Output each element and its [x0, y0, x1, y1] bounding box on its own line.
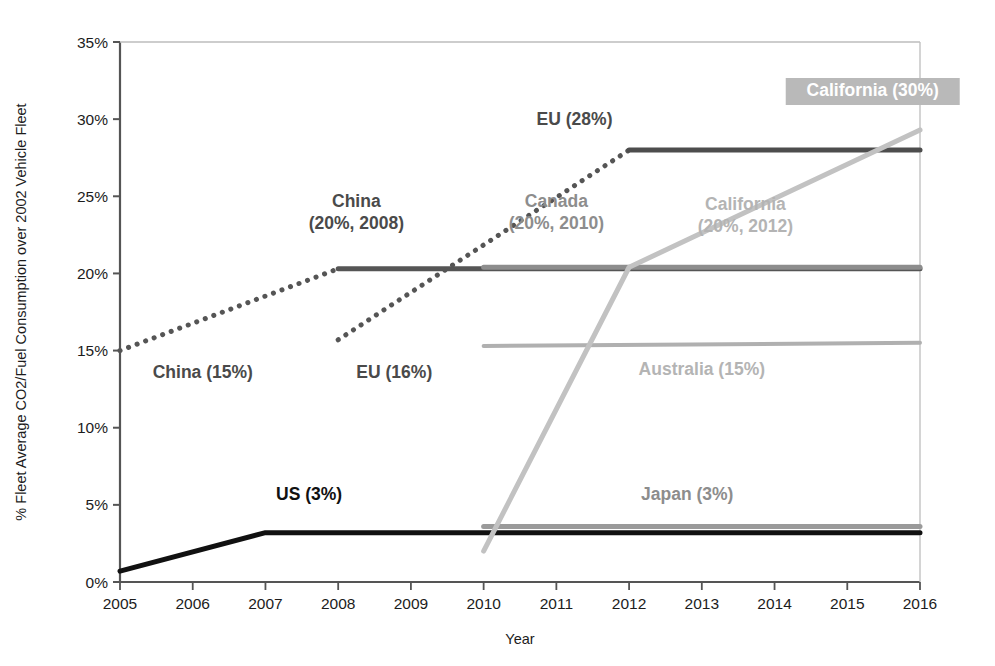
y-tick-label: 20% [77, 265, 108, 282]
annotation-label: (20%, 2008) [309, 213, 404, 233]
x-tick-label: 2012 [612, 595, 646, 612]
x-tick-label: 2013 [685, 595, 719, 612]
annotation-us-3: US (3%) [276, 484, 342, 504]
annotation-label: US (3%) [276, 484, 342, 504]
annotation-japan-3: Japan (3%) [641, 484, 733, 504]
x-tick-label: 2015 [830, 595, 864, 612]
x-tick-label: 2005 [103, 595, 137, 612]
annotation-label: California (30%) [807, 80, 939, 100]
y-tick-label: 5% [86, 496, 109, 513]
x-tick-label: 2007 [248, 595, 282, 612]
y-tick-label: 25% [77, 188, 108, 205]
annotation-label: Australia (15%) [639, 359, 765, 379]
annotation-label: (20%, 2012) [698, 216, 793, 236]
y-tick-label: 30% [77, 111, 108, 128]
annotation-label: EU (16%) [356, 362, 432, 382]
chart-container: 0%5%10%15%20%25%30%35% 20052006200720082… [0, 0, 995, 666]
x-tick-label: 2014 [757, 595, 792, 612]
x-tick-label: 2006 [175, 595, 209, 612]
annotation-australia-15: Australia (15%) [639, 359, 765, 379]
y-tick-label: 0% [86, 574, 109, 591]
annotation-label: California [705, 194, 786, 214]
x-tick-label: 2011 [540, 595, 573, 612]
annotation-china-15: China (15%) [153, 362, 253, 382]
annotation-eu-16: EU (16%) [356, 362, 432, 382]
annotation-label: Japan (3%) [641, 484, 733, 504]
y-tick-label: 35% [77, 34, 108, 51]
annotation-label: (20%, 2010) [509, 213, 604, 233]
x-axis-title: Year [505, 631, 534, 647]
annotation-label: China (15%) [153, 362, 253, 382]
line-chart: 0%5%10%15%20%25%30%35% 20052006200720082… [0, 0, 995, 666]
annotation-label: China [332, 191, 381, 211]
x-tick-label: 2016 [903, 595, 937, 612]
y-tick-label: 10% [77, 419, 108, 436]
annotation-eu-28: EU (28%) [537, 109, 613, 129]
y-tick-label: 15% [77, 342, 108, 359]
annotation-label: Canada [525, 191, 588, 211]
y-axis-title: % Fleet Average CO2/Fuel Consumption ove… [13, 103, 29, 520]
annotation-california-30: California (30%) [786, 78, 960, 105]
x-tick-label: 2008 [321, 595, 355, 612]
x-tick-label: 2010 [466, 595, 501, 612]
annotation-label: EU (28%) [537, 109, 613, 129]
x-tick-label: 2009 [394, 595, 428, 612]
